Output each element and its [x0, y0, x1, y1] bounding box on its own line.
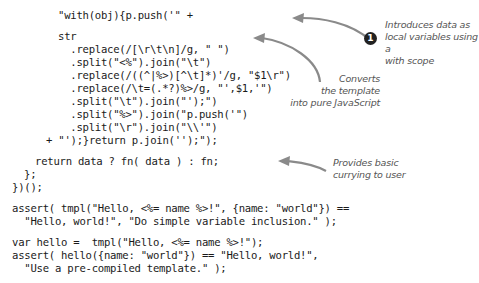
- note-line: currying to user: [333, 169, 405, 181]
- note-line: into pure JavaScript: [290, 97, 380, 109]
- annotation-converts-template: Converts the template into pure JavaScri…: [290, 73, 380, 109]
- note-line: with scope: [385, 55, 479, 67]
- annotation-with-scope: Introduces data as local variables using…: [385, 19, 479, 67]
- step-1-badge: 1: [364, 32, 377, 45]
- note-line: local variables using a: [385, 31, 479, 55]
- note-line: Converts: [290, 73, 380, 85]
- note-line: Introduces data as: [385, 19, 479, 31]
- annotation-currying: Provides basic currying to user: [333, 157, 405, 181]
- note-line: the template: [290, 85, 380, 97]
- note-line: Provides basic: [333, 157, 405, 169]
